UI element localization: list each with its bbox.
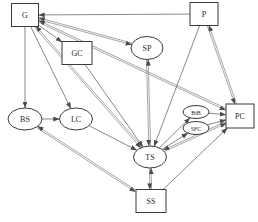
node-shape-p[interactable] <box>190 3 218 26</box>
edge-g-lc <box>31 27 71 109</box>
node-shape-gc[interactable] <box>62 42 92 65</box>
node-shape-ts[interactable] <box>134 146 167 168</box>
node-graph: GPGCSPBSLCBtBSFCPCTSSS <box>0 0 258 222</box>
diagram-canvas: GPGCSPBSLCBtBSFCPCTSSS <box>0 0 258 222</box>
edge-g-sp <box>38 18 132 45</box>
node-gc[interactable]: GC <box>62 42 92 65</box>
edge-sfc-pc <box>207 120 226 125</box>
node-ts[interactable]: TS <box>134 146 167 168</box>
node-sfc[interactable]: SFC <box>183 122 209 135</box>
node-shape-pc[interactable] <box>226 104 254 128</box>
edge-ts-ss <box>149 168 151 190</box>
edge-g-pc <box>38 21 226 111</box>
node-lc[interactable]: LC <box>60 108 93 130</box>
node-shape-ss[interactable] <box>136 190 166 213</box>
edge-bs-ss <box>37 126 137 192</box>
edge-ts-btb <box>159 118 190 148</box>
edge-p-pc <box>207 25 236 104</box>
node-p[interactable]: P <box>190 3 218 26</box>
node-shape-sp[interactable] <box>131 37 163 60</box>
node-shape-sfc[interactable] <box>183 122 209 135</box>
edge-btb-pc <box>209 113 226 115</box>
node-btb[interactable]: BtB <box>183 106 209 119</box>
node-sp[interactable]: SP <box>131 37 163 60</box>
node-shape-g[interactable] <box>12 4 39 27</box>
node-bs[interactable]: BS <box>8 108 42 130</box>
edge-lc-ts <box>89 126 137 151</box>
node-shape-bs[interactable] <box>8 108 42 130</box>
edge-gc-ts <box>85 65 143 148</box>
node-pc[interactable]: PC <box>226 104 254 128</box>
edge-p-g <box>39 14 191 15</box>
node-ss[interactable]: SS <box>136 190 166 213</box>
node-shape-lc[interactable] <box>60 108 93 130</box>
node-layer: GPGCSPBSLCBtBSFCPCTSSS <box>8 3 254 213</box>
edge-layer <box>25 14 237 192</box>
node-shape-btb[interactable] <box>183 106 209 119</box>
node-g[interactable]: G <box>12 4 39 27</box>
